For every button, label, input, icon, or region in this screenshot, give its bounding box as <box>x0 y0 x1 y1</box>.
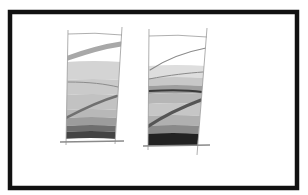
contour-band <box>65 61 122 80</box>
blade-hub-line <box>60 141 124 142</box>
contour-band <box>64 117 118 126</box>
contour-band <box>64 125 118 132</box>
contour-band <box>146 133 200 146</box>
contour-band <box>146 103 203 116</box>
blade-hub-line <box>143 145 210 146</box>
contour-band <box>147 77 206 86</box>
contour-band <box>64 131 117 139</box>
contour-band <box>146 125 201 134</box>
figure-canvas <box>0 0 308 195</box>
contour-band <box>65 79 121 95</box>
